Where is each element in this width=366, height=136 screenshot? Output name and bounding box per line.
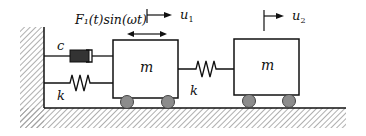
force-label: F₁(t)sin(ωt) xyxy=(74,12,147,27)
mass-2 xyxy=(234,39,299,108)
spring-coupling-label: k xyxy=(190,83,198,98)
displacement-u1-label: u1 xyxy=(180,7,193,24)
mass-1-label: m xyxy=(140,59,153,75)
damper xyxy=(44,50,113,62)
spring-coupling xyxy=(178,61,234,77)
force-arrow-icon xyxy=(127,31,167,37)
displacement-u1-arrow-icon xyxy=(147,9,172,23)
ground xyxy=(20,108,346,128)
displacement-u2-arrow-icon xyxy=(264,10,284,31)
spring-wall xyxy=(44,75,113,91)
damper-label: c xyxy=(57,38,65,53)
spring-wall-label: k xyxy=(57,88,65,103)
displacement-u2-label: u2 xyxy=(292,8,305,25)
mass-2-label: m xyxy=(261,57,274,73)
mass-spring-damper-diagram: c k m F₁(t)sin(ωt) u1 k m u2 xyxy=(0,0,366,136)
